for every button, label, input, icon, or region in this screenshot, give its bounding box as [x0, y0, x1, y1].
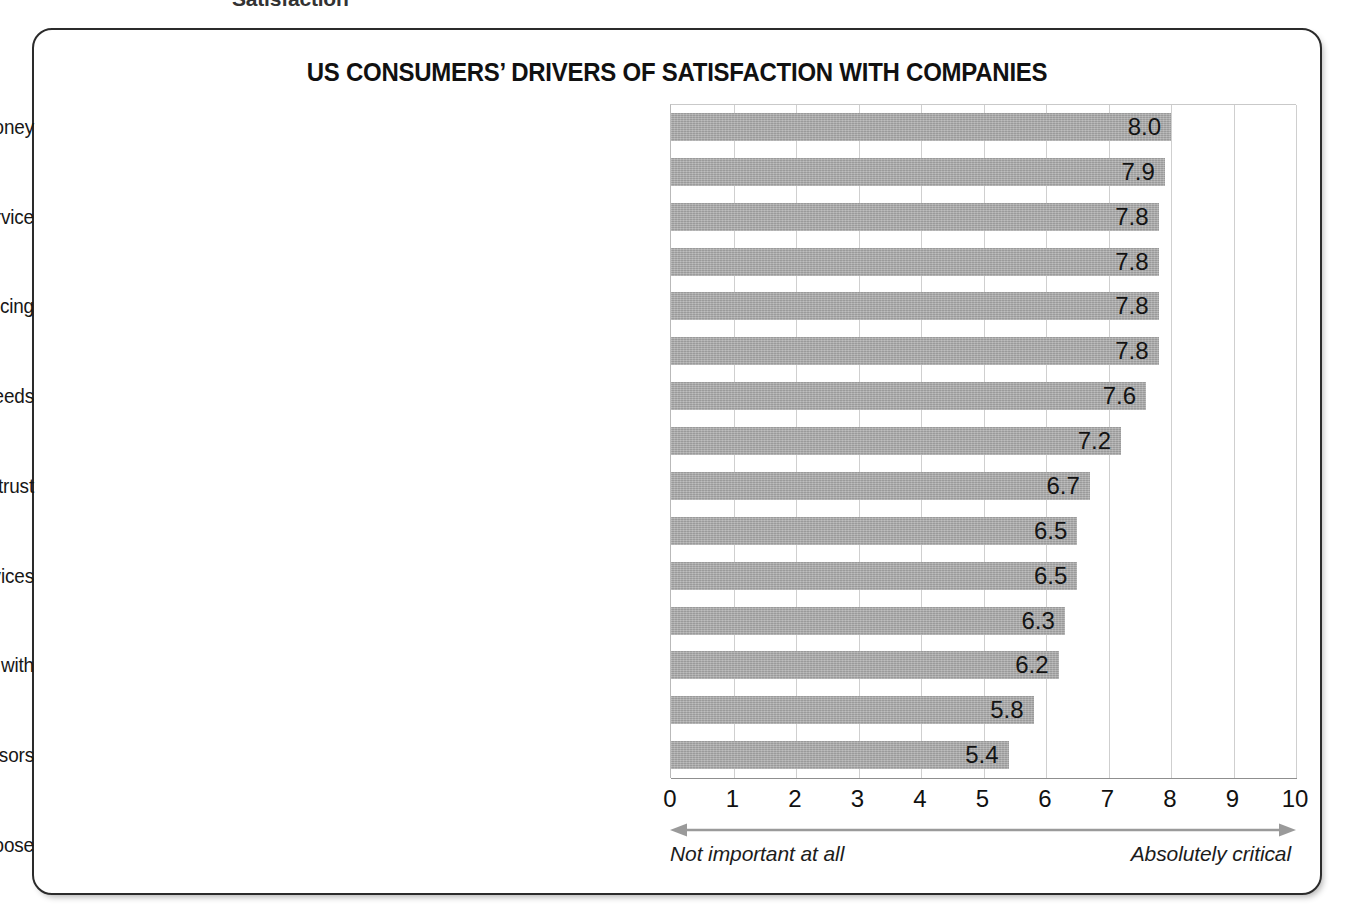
plot-area: 8.0They offer a good value for the money…	[670, 104, 1296, 778]
bar-value-label: 6.5	[671, 517, 1067, 545]
bar-value-label: 7.8	[671, 337, 1149, 365]
bar-value-label: 7.8	[671, 292, 1149, 320]
bar-row[interactable]: 7.8They have good/competitive pricing	[671, 195, 1296, 240]
x-tick-label: 1	[713, 785, 753, 813]
axis-caption-right: Absolutely critical	[1131, 842, 1291, 866]
category-label: They have high-quality sales representat…	[0, 744, 34, 766]
bar-value-label: 5.8	[671, 696, 1024, 724]
x-tick-label: 3	[838, 785, 878, 813]
bar-value-label: 5.4	[671, 741, 999, 769]
bar-value-label: 6.7	[671, 472, 1080, 500]
x-tick-label: 9	[1213, 785, 1253, 813]
bar-value-label: 7.2	[671, 427, 1111, 455]
bar-row[interactable]: 5.4They have business practices that are…	[671, 733, 1296, 778]
bar-row[interactable]: 7.8They are a company I trust	[671, 284, 1296, 329]
chart-card: US CONSUMERS’ DRIVERS OF SATISFACTION WI…	[32, 28, 1322, 895]
bar-value-label: 6.5	[671, 562, 1067, 590]
bar-value-label: 7.8	[671, 248, 1149, 276]
x-tick-label: 7	[1088, 785, 1128, 813]
category-label: The people that work there have the righ…	[0, 385, 34, 407]
bar-row[interactable]: 7.6They make it easy to do business with	[671, 374, 1296, 419]
bar-row[interactable]: 8.0They offer a good value for the money	[671, 105, 1296, 150]
category-label: They have a wide range of product and se…	[0, 834, 34, 856]
bar-row[interactable]: 7.8They have high quality products/servi…	[671, 329, 1296, 374]
importance-scale-arrow	[670, 821, 1296, 839]
bar-row[interactable]: 6.7They have a wide range of product and…	[671, 464, 1296, 509]
clipped-section-heading: Satisfaction	[232, 0, 349, 11]
category-label: They are a company I trust	[0, 475, 34, 497]
category-label: They make it easy to do business with	[0, 654, 34, 676]
bar-row[interactable]: 6.2They are an innovative company	[671, 643, 1296, 688]
bar-value-label: 6.3	[671, 607, 1055, 635]
chart-title: US CONSUMERS’ DRIVERS OF SATISFACTION WI…	[73, 58, 1282, 87]
bar-row[interactable]: 7.9They have high-quality customer servi…	[671, 150, 1296, 195]
axis-caption-left: Not important at all	[670, 842, 844, 866]
plot-bottom-axis	[671, 778, 1297, 779]
x-tick-label: 5	[963, 785, 1003, 813]
category-label: They have high-quality customer service	[0, 206, 34, 228]
bar-row[interactable]: 5.8They offer the digital experience in …	[671, 688, 1296, 733]
category-label: They have high quality products/services	[0, 565, 34, 587]
bar-row[interactable]: 6.5They have high-quality sales reps/age…	[671, 554, 1296, 599]
bar-row[interactable]: 6.3Their communications with me make me …	[671, 599, 1296, 644]
x-tick-label: 4	[900, 785, 940, 813]
category-label: They have good/competitive pricing	[0, 295, 34, 317]
gridline	[1296, 105, 1297, 778]
x-tick-label: 0	[650, 785, 690, 813]
bar-row[interactable]: 6.5They tailor my customer experience ba…	[671, 509, 1296, 554]
x-axis-tick-labels: 012345678910	[670, 785, 1295, 815]
bar-row[interactable]: 7.8The people that work there have the r…	[671, 240, 1296, 285]
x-tick-label: 6	[1025, 785, 1065, 813]
bar-value-label: 6.2	[671, 651, 1049, 679]
bar-value-label: 7.9	[671, 158, 1155, 186]
bar-value-label: 8.0	[671, 113, 1161, 141]
bar-value-label: 7.6	[671, 382, 1136, 410]
bar-value-label: 7.8	[671, 203, 1149, 231]
x-tick-label: 10	[1275, 785, 1315, 813]
x-tick-label: 2	[775, 785, 815, 813]
category-label: They offer a good value for the money	[0, 116, 34, 138]
x-tick-label: 8	[1150, 785, 1190, 813]
bar-row[interactable]: 7.2They have high-quality sales represen…	[671, 419, 1296, 464]
